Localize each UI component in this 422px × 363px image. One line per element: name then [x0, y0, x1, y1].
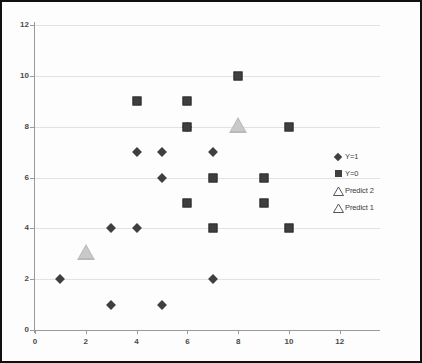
y-tick-label-2: 2	[3, 275, 29, 283]
diamond-marker	[157, 300, 167, 310]
data-point	[162, 152, 169, 159]
data-point	[213, 152, 220, 159]
legend-marker-triangle	[332, 185, 344, 197]
data-point	[60, 279, 67, 286]
square-marker	[285, 224, 294, 233]
legend-label: Y=1	[345, 152, 358, 161]
legend-item-predict-1: Predict 1	[332, 199, 414, 216]
diamond-marker	[55, 274, 65, 284]
legend-triangle-icon	[333, 186, 344, 196]
data-point	[213, 178, 222, 187]
square-marker	[259, 173, 268, 182]
square-marker	[208, 173, 217, 182]
data-point	[137, 228, 144, 235]
square-marker	[183, 198, 192, 207]
y-axis-tick-labels: 024681012	[2, 2, 29, 342]
diamond-marker	[106, 223, 116, 233]
x-tick-2	[86, 330, 87, 334]
x-tick-8	[238, 330, 239, 334]
chart-border-frame: 024681012 024681012 Y=1Y=0Predict 2Predi…	[0, 0, 422, 363]
legend-diamond-icon	[334, 152, 342, 160]
y-tick-label-10: 10	[3, 72, 29, 80]
legend-item-predict-2: Predict 2	[332, 182, 414, 199]
x-tick-label-10: 10	[277, 338, 301, 346]
gridline-y-8	[35, 127, 380, 128]
legend-label: Y=0	[345, 169, 358, 178]
data-point	[111, 228, 118, 235]
x-tick-label-4: 4	[125, 338, 149, 346]
legend-triangle-icon	[333, 203, 344, 213]
data-point	[162, 305, 169, 312]
x-tick-label-2: 2	[74, 338, 98, 346]
data-point	[162, 178, 169, 185]
triangle-marker	[77, 244, 95, 260]
diamond-marker	[157, 147, 167, 157]
data-point	[187, 203, 196, 212]
x-tick-label-8: 8	[226, 338, 250, 346]
legend-marker-square	[332, 168, 344, 180]
y-tick-label-4: 4	[3, 224, 29, 232]
x-tick-0	[35, 330, 36, 334]
y-axis-line	[34, 22, 35, 333]
x-tick-6	[187, 330, 188, 334]
diamond-marker	[208, 147, 218, 157]
data-point	[264, 203, 273, 212]
legend-marker-triangle	[332, 202, 344, 214]
legend-item-y-1: Y=1	[332, 148, 414, 165]
gridline-y-12	[35, 25, 380, 26]
x-tick-12	[340, 330, 341, 334]
data-point	[187, 101, 196, 110]
legend-label: Predict 1	[345, 203, 374, 212]
legend-label: Predict 2	[345, 186, 374, 195]
square-marker	[183, 122, 192, 131]
diamond-marker	[132, 223, 142, 233]
legend-item-y-0: Y=0	[332, 165, 414, 182]
x-tick-4	[137, 330, 138, 334]
y-tick-6	[30, 178, 34, 179]
data-point	[238, 127, 256, 143]
legend-square-icon	[335, 170, 342, 177]
square-marker	[208, 224, 217, 233]
chart-legend: Y=1Y=0Predict 2Predict 1	[332, 148, 414, 216]
y-tick-2	[30, 279, 34, 280]
data-point	[187, 127, 196, 136]
data-point	[289, 228, 298, 237]
y-tick-label-8: 8	[3, 123, 29, 131]
x-tick-10	[289, 330, 290, 334]
x-tick-label-12: 12	[328, 338, 352, 346]
data-point	[86, 254, 104, 270]
y-tick-0	[30, 330, 34, 331]
diamond-marker	[132, 147, 142, 157]
y-tick-8	[30, 127, 34, 128]
legend-marker-diamond	[332, 151, 344, 163]
square-marker	[183, 97, 192, 106]
square-marker	[132, 97, 141, 106]
data-point	[137, 152, 144, 159]
x-tick-label-0: 0	[23, 338, 47, 346]
diamond-marker	[208, 274, 218, 284]
data-point	[111, 305, 118, 312]
data-point	[264, 178, 273, 187]
data-point	[238, 76, 247, 85]
y-tick-label-6: 6	[3, 174, 29, 182]
x-tick-label-6: 6	[175, 338, 199, 346]
data-point	[137, 101, 146, 110]
diamond-marker	[157, 173, 167, 183]
data-point	[213, 279, 220, 286]
square-marker	[234, 71, 243, 80]
scatter-chart: 024681012 024681012 Y=1Y=0Predict 2Predi…	[2, 2, 422, 363]
y-tick-4	[30, 228, 34, 229]
diamond-marker	[106, 300, 116, 310]
triangle-marker	[229, 117, 247, 133]
y-tick-10	[30, 76, 34, 77]
data-point	[289, 127, 298, 136]
square-marker	[285, 122, 294, 131]
square-marker	[259, 198, 268, 207]
y-tick-label-12: 12	[3, 21, 29, 29]
data-point	[213, 228, 222, 237]
gridline-y-10	[35, 76, 380, 77]
y-tick-label-0: 0	[3, 326, 29, 334]
y-tick-12	[30, 25, 34, 26]
